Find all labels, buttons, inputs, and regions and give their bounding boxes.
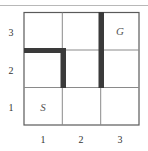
y-tick-2: 2	[9, 66, 14, 76]
goal-cell-label: G	[116, 26, 124, 37]
gridworld	[0, 0, 148, 151]
start-cell-label: S	[40, 102, 46, 113]
wall-vertical-left	[61, 48, 67, 88]
y-tick-3: 3	[9, 28, 14, 38]
wall-vertical-right	[99, 12, 105, 88]
x-tick-1: 1	[41, 135, 46, 145]
x-tick-2: 2	[79, 135, 84, 145]
wall-horizontal	[24, 48, 66, 53]
y-tick-1: 1	[9, 103, 14, 113]
x-tick-3: 3	[118, 135, 123, 145]
